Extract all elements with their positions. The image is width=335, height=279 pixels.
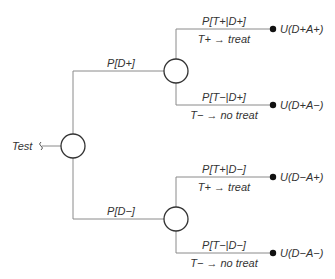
prob-d-plus: P[D+] bbox=[107, 57, 135, 69]
d-plus-chance-node bbox=[164, 59, 188, 83]
utility-dpos-aneg: U(D+A−) bbox=[280, 99, 323, 111]
utility-dneg-aneg: U(D−A−) bbox=[280, 247, 323, 259]
prob-tpos-dneg: P[T+|D−] bbox=[202, 163, 246, 175]
d-minus-chance-node bbox=[164, 207, 188, 231]
root-label: Test bbox=[12, 140, 32, 152]
root-chance-node bbox=[61, 134, 85, 158]
utility-dpos-apos: U(D+A+) bbox=[280, 23, 323, 35]
action-tpos-dneg: T+ → treat bbox=[198, 181, 250, 193]
action-tneg-dpos: T− → no treat bbox=[190, 109, 258, 121]
terminal-node-2 bbox=[270, 102, 276, 108]
prob-tneg-dneg: P[T−|D−] bbox=[202, 239, 246, 251]
terminal-node-3 bbox=[270, 174, 276, 180]
action-tneg-dneg: T− → no treat bbox=[190, 257, 258, 269]
prob-tpos-dpos: P[T+|D+] bbox=[202, 15, 246, 27]
utility-dneg-apos: U(D−A+) bbox=[280, 171, 323, 183]
prob-d-minus: P[D−] bbox=[107, 205, 135, 217]
decision-tree-canvas bbox=[0, 0, 335, 279]
prob-tneg-dpos: P[T−|D+] bbox=[202, 91, 246, 103]
terminal-node-4 bbox=[270, 250, 276, 256]
terminal-node-1 bbox=[270, 26, 276, 32]
action-tpos-dpos: T+ → treat bbox=[198, 33, 250, 45]
